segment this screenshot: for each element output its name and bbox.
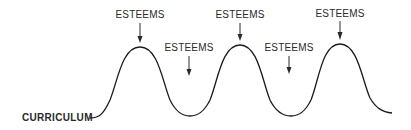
peak-2-arrow-down-icon [238, 34, 243, 41]
trough-2-label: ESTEEMS [264, 42, 313, 53]
peak-1-annotation: ESTEEMS [115, 9, 164, 43]
curriculum-label: CURRICULUM [22, 112, 93, 123]
trough-1-arrow-down-icon [187, 69, 192, 76]
peak-2-label: ESTEEMS [215, 9, 264, 20]
trough-1-label: ESTEEMS [164, 42, 213, 53]
peak-1-arrow-down-icon [138, 36, 143, 43]
curriculum-esteems-wave-diagram: CURRICULUM ESTEEMS ESTEEMS ESTEEMS ESTEE… [0, 0, 411, 130]
trough-2-annotation: ESTEEMS [264, 42, 313, 74]
peak-3-label: ESTEEMS [315, 8, 364, 19]
peak-3-annotation: ESTEEMS [315, 8, 364, 40]
peak-3-arrow-down-icon [338, 32, 343, 40]
trough-2-arrow-down-icon [287, 67, 292, 74]
curriculum-wave-line [90, 44, 392, 118]
peak-2-annotation: ESTEEMS [215, 9, 264, 41]
peak-1-label: ESTEEMS [115, 9, 164, 20]
trough-1-annotation: ESTEEMS [164, 42, 213, 76]
